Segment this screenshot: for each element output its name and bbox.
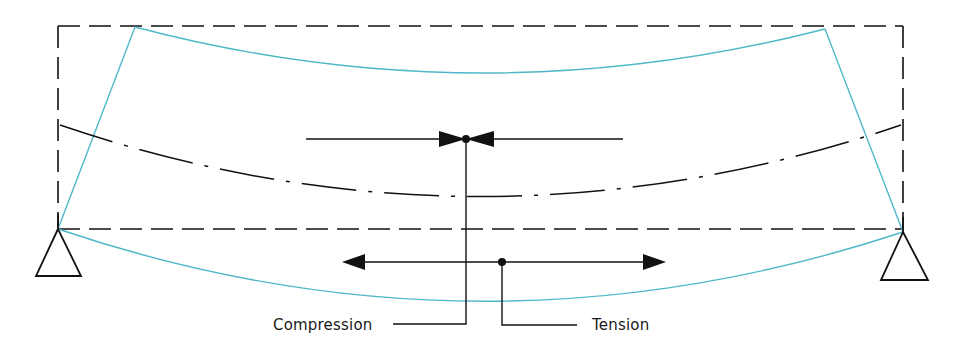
tension-label: Tension [591,316,649,334]
right-support-icon [881,232,928,280]
compression-arrow-left-icon [439,131,466,147]
beam-bending-diagram: Compression Tension [0,0,962,349]
tension-indicator [342,254,666,325]
deformed-beam-outline [58,27,903,301]
tension-arrow-left-icon [342,254,365,270]
original-beam-outline [58,26,903,232]
compression-arrow-right-icon [466,131,494,147]
tension-arrow-right-icon [643,254,666,270]
compression-label: Compression [273,316,373,334]
left-support-icon [36,229,81,276]
